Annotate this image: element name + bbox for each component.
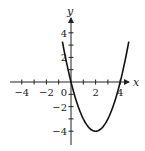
chart: x y −4−2024 42−2−4 [0, 0, 145, 151]
y-axis-label: y [66, 5, 74, 18]
x-tick-label: 0 [61, 87, 67, 98]
y-tick-label: −4 [52, 126, 67, 137]
y-tick-label: −2 [52, 102, 67, 113]
x-tick-label: −2 [39, 87, 54, 98]
x-axis-label: x [133, 76, 140, 89]
x-tick-label: −4 [14, 87, 29, 98]
y-tick-label: 4 [61, 28, 67, 39]
x-tick-label: 2 [92, 87, 98, 98]
